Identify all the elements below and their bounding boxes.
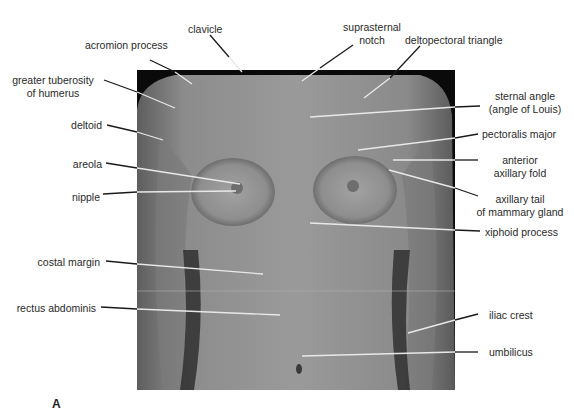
label-costal-margin: costal margin [10, 256, 100, 269]
label-sternal-angle: sternal angle (angle of Louis) [480, 90, 570, 115]
label-iliac-crest: iliac crest [489, 309, 533, 322]
label-anterior-axillary-fold: anterior axillary fold [480, 154, 560, 179]
label-xiphoid-process: xiphoid process [485, 226, 558, 239]
label-umbilicus: umbilicus [489, 346, 533, 359]
label-rectus-abdominis: rectus abdominis [4, 302, 96, 315]
label-nipple: nipple [40, 191, 100, 204]
label-clavicle: clavicle [188, 23, 222, 36]
panel-label: A [52, 397, 61, 411]
label-axillary-tail-of-mammary-gland: axillary tail of mammary gland [470, 193, 570, 218]
label-pectoralis-major: pectoralis major [482, 128, 556, 141]
label-suprasternal-notch: suprasternal notch [332, 21, 412, 46]
torso-photo [137, 75, 455, 390]
label-deltoid: deltoid [40, 119, 102, 132]
label-areola: areola [40, 158, 102, 171]
label-acromion-process: acromion process [85, 39, 168, 52]
label-deltopectoral-triangle: deltopectoral triangle [405, 34, 502, 47]
label-greater-tuberosity-of-humerus: greater tuberosity of humerus [8, 74, 98, 99]
